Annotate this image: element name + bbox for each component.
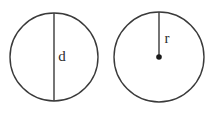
diagram-canvas: d r — [0, 0, 216, 114]
circle-diagram-svg: d r — [0, 0, 216, 114]
center-point-dot — [156, 54, 162, 60]
diameter-label: d — [58, 48, 66, 64]
figure-radius-circle: r — [114, 12, 204, 102]
figure-diameter-circle: d — [10, 13, 98, 101]
radius-label: r — [165, 30, 170, 46]
